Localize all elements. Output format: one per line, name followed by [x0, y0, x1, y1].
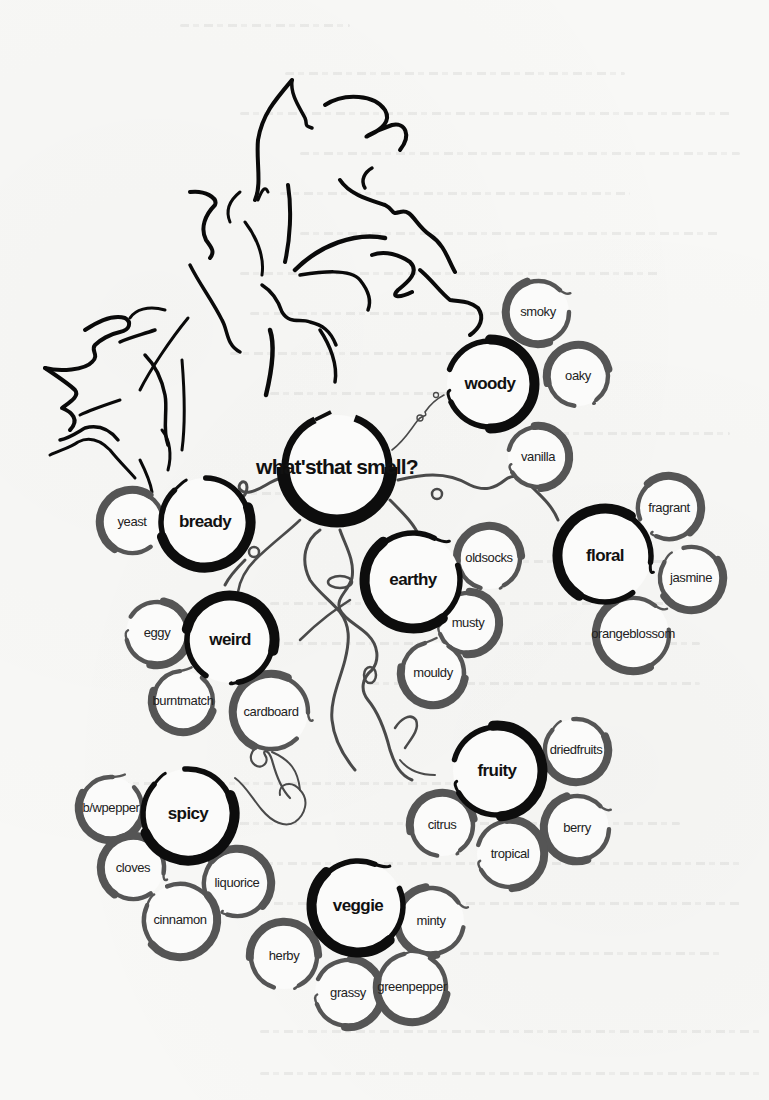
descriptor-label-citrus: citrus: [428, 818, 457, 832]
category-label-floral: floral: [586, 547, 624, 565]
descriptor-label-mouldy: mouldy: [413, 666, 453, 680]
label-line: liquorice: [215, 876, 260, 890]
label-line: that smell?: [316, 456, 418, 478]
label-line: citrus: [428, 818, 457, 832]
label-line: pepper: [101, 801, 139, 815]
descriptor-label-old-socks: oldsocks: [465, 551, 512, 565]
label-line: cardboard: [244, 705, 299, 719]
label-line: b/w: [82, 801, 101, 815]
descriptor-label-green-pepper: greenpepper: [377, 980, 446, 994]
descriptor-label-cinnamon: cinnamon: [153, 913, 206, 927]
hub-label: what'sthat smell?: [256, 456, 418, 478]
label-line: spicy: [168, 805, 208, 823]
label-line: smoky: [520, 305, 556, 319]
descriptor-label-orange-blossom: orangeblossom: [591, 627, 675, 641]
label-line: green: [377, 980, 408, 994]
category-label-weird: weird: [209, 631, 250, 649]
label-line: eggy: [144, 626, 171, 640]
label-line: orange: [591, 627, 629, 641]
descriptor-label-b-w-pepper: b/wpepper: [82, 801, 139, 815]
label-line: floral: [586, 547, 624, 565]
descriptor-label-musty: musty: [452, 616, 485, 630]
label-line: earthy: [389, 571, 436, 589]
label-line: mouldy: [413, 666, 453, 680]
label-line: pepper: [409, 980, 447, 994]
descriptor-label-dried-fruits: driedfruits: [550, 743, 603, 757]
label-line: bready: [179, 513, 231, 531]
label-line: cloves: [116, 861, 150, 875]
label-line: tropical: [491, 847, 530, 861]
descriptor-label-tropical: tropical: [491, 847, 530, 861]
descriptor-label-yeast: yeast: [117, 515, 146, 529]
descriptor-label-burnt-match: burntmatch: [152, 694, 213, 708]
label-line: oaky: [565, 369, 591, 383]
descriptor-label-herby: herby: [269, 949, 300, 963]
label-line: veggie: [333, 897, 383, 915]
label-line: fragrant: [648, 501, 690, 515]
label-line: burnt: [152, 694, 180, 708]
grapevine-illustration: [0, 0, 769, 1100]
descriptor-label-liquorice: liquorice: [215, 876, 260, 890]
category-label-veggie: veggie: [333, 897, 383, 915]
label-line: grassy: [330, 986, 366, 1000]
label-line: cinnamon: [153, 913, 206, 927]
label-line: woody: [465, 375, 516, 393]
label-line: match: [180, 694, 213, 708]
label-line: berry: [563, 821, 591, 835]
grape-leaves: [45, 80, 481, 492]
label-line: yeast: [117, 515, 146, 529]
descriptor-label-eggy: eggy: [144, 626, 171, 640]
label-line: musty: [452, 616, 485, 630]
label-line: herby: [269, 949, 300, 963]
label-line: vanilla: [521, 450, 555, 464]
category-label-earthy: earthy: [389, 571, 436, 589]
descriptor-label-minty: minty: [416, 914, 445, 928]
descriptor-label-berry: berry: [563, 821, 591, 835]
label-line: socks: [481, 551, 512, 565]
descriptor-label-vanilla: vanilla: [521, 450, 555, 464]
category-label-bready: bready: [179, 513, 231, 531]
label-line: weird: [209, 631, 250, 649]
label-line: fruits: [577, 743, 603, 757]
label-line: dried: [550, 743, 577, 757]
label-line: what's: [256, 456, 316, 478]
category-label-spicy: spicy: [168, 805, 208, 823]
label-line: old: [465, 551, 481, 565]
descriptor-label-grassy: grassy: [330, 986, 366, 1000]
descriptor-label-oaky: oaky: [565, 369, 591, 383]
descriptor-label-smoky: smoky: [520, 305, 556, 319]
label-line: fruity: [478, 762, 517, 780]
label-line: blossom: [629, 627, 675, 641]
descriptor-label-fragrant: fragrant: [648, 501, 690, 515]
category-label-fruity: fruity: [478, 762, 517, 780]
label-line: jasmine: [670, 571, 712, 585]
category-label-woody: woody: [465, 375, 516, 393]
descriptor-label-cardboard: cardboard: [244, 705, 299, 719]
descriptor-label-jasmine: jasmine: [670, 571, 712, 585]
label-line: minty: [416, 914, 445, 928]
descriptor-label-cloves: cloves: [116, 861, 150, 875]
